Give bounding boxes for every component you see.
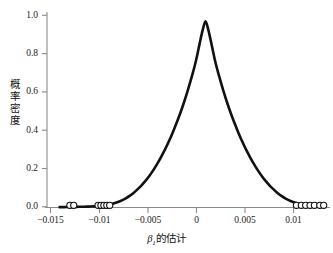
x-tick-label--0.005: −0.005 [122, 215, 174, 225]
x-axis-ticks [51, 208, 294, 214]
x-tick-label--0.01: −0.01 [74, 215, 125, 225]
y-tick-label-0.8: 0.8 [14, 48, 38, 58]
x-tick-label-0.01: 0.01 [268, 215, 319, 225]
axes-group [42, 12, 330, 213]
y-axis-title: 概 率 密 度 [8, 78, 22, 126]
x-axis-title: β1的估计 [0, 230, 333, 247]
density-curve [60, 21, 323, 207]
y-tick-label-0.0: 0.0 [14, 201, 38, 211]
x-tick-label-0.005: 0.005 [219, 215, 271, 225]
x-axis-title-suffix: 的估计 [156, 233, 186, 244]
y-tick-label-1.0: 1.0 [14, 10, 38, 20]
y-tick-label-0.2: 0.2 [14, 163, 38, 173]
y-axis-title-char-4: 度 [8, 114, 22, 126]
observation-marker [71, 202, 77, 208]
y-axis-title-char-2: 率 [8, 90, 22, 102]
y-tick-label-0.4: 0.4 [14, 125, 38, 135]
observation-marker [321, 202, 327, 208]
y-axis-title-char-3: 密 [8, 102, 22, 114]
observation-marker [107, 202, 113, 208]
x-tick-label-0: 0 [171, 215, 222, 225]
density-plot-figure: 1.0 0.8 0.6 0.4 0.2 0.0 −0.015 −0.01 −0.… [0, 0, 333, 253]
y-axis-title-char-1: 概 [8, 78, 22, 90]
y-axis-ticks [42, 15, 47, 207]
x-tick-label--0.015: −0.015 [25, 215, 76, 225]
